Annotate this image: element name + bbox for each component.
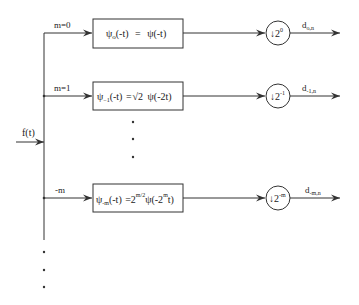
branch-label: m=1 [54, 83, 71, 93]
branch-minus-m: -m ψ-m(-t) =2m/2ψ(-2mt) ↓2-m d-m,n [43, 184, 340, 212]
ellipsis-bottom [43, 251, 45, 288]
ellipsis-middle [132, 121, 134, 158]
branch-label: -m [55, 185, 65, 195]
branch-m1: m=1 ψ−1(-t) =√2 ψ(-2t) ↓2-1 d-1,n [43, 82, 340, 110]
output-label: d-1,n [302, 83, 316, 94]
branch-m0: m=0 ψo(-t) = ψ(-t) ↓20 do,n [44, 19, 340, 48]
output-label: do,n [302, 20, 314, 31]
input-signal: f(t) [16, 127, 44, 142]
output-label: d-m,n [305, 185, 321, 196]
branch-label: m=0 [54, 20, 71, 30]
input-label: f(t) [22, 127, 35, 139]
wavelet-filter-bank-diagram: f(t) m=0 ψo(-t) = ψ(-t) ↓20 do,n m=1 ψ−1… [0, 0, 359, 305]
